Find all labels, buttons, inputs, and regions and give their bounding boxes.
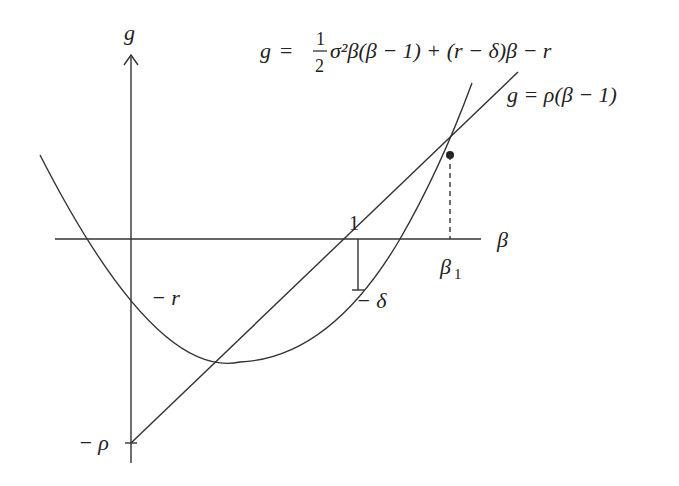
- beta-axis-label: β: [496, 227, 508, 252]
- label-beta1: β: [439, 254, 451, 279]
- label-minus-rho: − ρ: [78, 430, 109, 455]
- label-beta1-subscript: 1: [454, 266, 462, 282]
- parabola-eq-rhs: σ²β(β − 1) + (r − δ)β − r: [330, 38, 552, 63]
- rho-line: [131, 72, 518, 443]
- label-minus-r: − r: [151, 285, 180, 310]
- label-one: 1: [349, 212, 359, 234]
- line-eq-label: g = ρ(β − 1): [507, 82, 617, 107]
- label-minus-delta: − δ: [356, 288, 387, 313]
- parabola-eq-frac-num: 1: [316, 29, 325, 49]
- g-axis-label: g: [124, 20, 135, 45]
- parabola-eq-frac-den: 2: [315, 56, 324, 76]
- parabola-eq-equals: =: [280, 38, 292, 63]
- parabola-curve: [40, 83, 472, 363]
- parabola-eq-lhs: g: [260, 38, 271, 63]
- diagram-canvas: g β g = 1 2 σ²β(β − 1) + (r − δ)β − r g …: [0, 0, 679, 486]
